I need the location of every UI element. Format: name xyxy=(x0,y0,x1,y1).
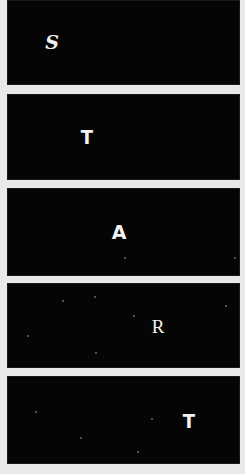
star-speck xyxy=(234,257,236,259)
letter-panel-4: R xyxy=(7,283,240,368)
star-speck xyxy=(133,315,135,317)
star-speck xyxy=(35,411,37,413)
star-speck xyxy=(225,305,227,307)
star-speck xyxy=(27,335,29,337)
star-speck xyxy=(95,352,97,354)
letter-panel-3: A xyxy=(7,188,240,276)
panel-letter: T xyxy=(81,127,93,147)
letter-panel-2: T xyxy=(7,94,240,180)
panel-letter: S xyxy=(45,33,59,52)
star-speck xyxy=(80,437,82,439)
star-speck xyxy=(94,296,96,298)
star-speck xyxy=(62,300,64,302)
panel-letter: T xyxy=(183,411,195,431)
star-speck xyxy=(137,451,139,453)
letter-panel-5: T xyxy=(7,376,240,464)
star-speck xyxy=(151,418,153,420)
panel-letter: R xyxy=(152,317,165,336)
star-speck xyxy=(124,257,126,259)
panel-letter: A xyxy=(112,223,127,242)
letter-panel-1: S xyxy=(7,0,240,85)
